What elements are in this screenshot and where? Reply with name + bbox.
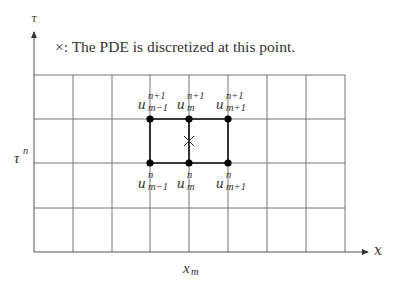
node-sup: n+1 — [148, 91, 166, 102]
node-sub: m+1 — [226, 182, 246, 193]
node-sup: n — [148, 170, 153, 181]
node-label-bottom-center: u n m — [177, 176, 185, 191]
node-label-top-left: u n+1 m−1 — [138, 97, 146, 112]
row-label-tau-n: τ n — [14, 151, 19, 166]
node-sub: m−1 — [148, 182, 168, 193]
node-sub: m — [187, 103, 195, 114]
node-label-bottom-right: u n m+1 — [216, 176, 224, 191]
row-label-sup: n — [23, 146, 28, 157]
node-sup: n+1 — [226, 91, 244, 102]
node-sub: m−1 — [148, 103, 168, 114]
x-axis-label: x — [374, 243, 382, 257]
node-sub: m+1 — [226, 103, 246, 114]
node-base: u — [177, 175, 185, 191]
row-label-base: τ — [14, 150, 19, 166]
node-label-top-right: u n+1 m+1 — [216, 97, 224, 112]
col-label-base: x — [183, 260, 190, 276]
node-sup: n+1 — [187, 91, 205, 102]
node-label-top-center: u n+1 m — [177, 97, 185, 112]
col-label-sub: m — [191, 267, 199, 278]
node-base: u — [138, 175, 146, 191]
node-sup: n — [187, 170, 192, 181]
col-label-x-m: x m — [183, 261, 190, 276]
caption: ×: The PDE is discretized at this point. — [55, 38, 295, 56]
node-base: u — [216, 96, 224, 112]
tau-axis-label: τ — [31, 13, 37, 24]
node-sub: m — [187, 182, 195, 193]
node-base: u — [177, 96, 185, 112]
node-label-bottom-left: u n m−1 — [138, 176, 146, 191]
node-base: u — [138, 96, 146, 112]
node-base: u — [216, 175, 224, 191]
node-sup: n — [226, 170, 231, 181]
